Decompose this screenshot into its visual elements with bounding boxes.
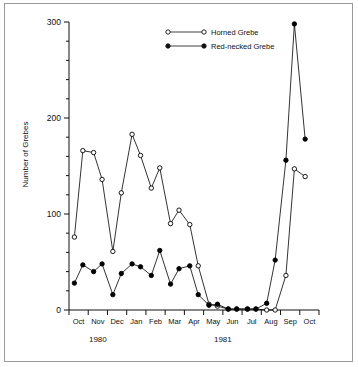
x-tick-label-dec-2: Dec (110, 317, 124, 326)
data-point-2-7 (138, 265, 142, 269)
data-point-2-8 (149, 273, 153, 277)
legend-label-1: Horned Grebe (211, 28, 259, 37)
data-point-1-9 (158, 166, 162, 170)
data-point-2-17 (234, 307, 238, 311)
x-tick-label-sep-11: Sep (283, 317, 296, 326)
x-tick-label-jun-8: Jun (226, 317, 238, 326)
legend-marker-1-1 (202, 30, 206, 34)
y-tick-label: 200 (47, 113, 61, 123)
legend-marker-2-1 (202, 44, 206, 48)
data-point-1-11 (177, 208, 181, 212)
data-point-2-12 (188, 264, 192, 268)
legend-marker-1-0 (166, 30, 170, 34)
data-point-1-4 (111, 249, 115, 253)
grebe-population-chart: Number of Grebes 0100200300OctNovDecJanF… (0, 0, 358, 367)
data-point-1-5 (119, 191, 123, 195)
data-point-1-1 (81, 148, 85, 152)
x-tick-label-oct-12: Oct (304, 317, 317, 326)
data-point-2-13 (196, 292, 200, 296)
y-tick-label: 100 (47, 209, 61, 219)
data-point-2-0 (72, 281, 76, 285)
data-point-1-7 (138, 153, 142, 157)
data-point-2-15 (215, 302, 219, 306)
data-point-2-20 (264, 301, 268, 305)
x-tick-label-jan-3: Jan (130, 317, 142, 326)
x-tick-label-jul-9: Jul (247, 317, 257, 326)
y-axis-title: Number of Grebes (21, 110, 30, 200)
data-point-1-6 (130, 132, 134, 136)
data-point-2-5 (119, 271, 123, 275)
data-point-2-23 (292, 22, 296, 26)
legend-label-2: Red-necked Grebe (211, 42, 274, 51)
data-point-1-0 (72, 235, 76, 239)
x-tick-label-oct-0: Oct (73, 317, 86, 326)
year-label-1980: 1980 (89, 335, 107, 344)
x-tick-label-aug-10: Aug (264, 317, 277, 326)
data-point-2-2 (91, 269, 95, 273)
legend-marker-2-0 (166, 44, 170, 48)
x-tick-label-nov-1: Nov (91, 317, 105, 326)
data-point-1-8 (149, 186, 153, 190)
y-tick-label: 300 (47, 17, 61, 27)
data-point-2-22 (284, 158, 288, 162)
data-point-2-3 (100, 262, 104, 266)
data-point-1-12 (188, 222, 192, 226)
data-point-2-14 (207, 303, 211, 307)
data-point-2-19 (254, 307, 258, 311)
data-point-1-10 (168, 221, 172, 225)
data-point-2-4 (111, 292, 115, 296)
data-point-1-23 (292, 167, 296, 171)
data-point-2-21 (273, 258, 277, 262)
data-point-2-1 (81, 263, 85, 267)
chart-canvas: 0100200300OctNovDecJanFebMarAprMayJunJul… (0, 0, 358, 367)
data-point-2-6 (130, 262, 134, 266)
data-point-1-20 (264, 308, 268, 312)
data-point-1-21 (273, 308, 277, 312)
data-point-1-24 (303, 174, 307, 178)
data-point-2-24 (303, 137, 307, 141)
data-point-2-10 (168, 282, 172, 286)
x-tick-label-may-7: May (206, 317, 220, 326)
data-point-1-22 (284, 273, 288, 277)
year-label-1981: 1981 (214, 335, 232, 344)
data-point-2-18 (245, 307, 249, 311)
x-tick-label-feb-4: Feb (149, 317, 162, 326)
data-point-1-2 (91, 150, 95, 154)
data-point-1-13 (196, 264, 200, 268)
data-point-2-11 (177, 267, 181, 271)
data-point-2-16 (226, 307, 230, 311)
x-tick-label-mar-5: Mar (168, 317, 181, 326)
data-point-2-9 (158, 248, 162, 252)
y-tick-label: 0 (56, 305, 61, 315)
x-tick-label-apr-6: Apr (188, 317, 200, 326)
data-point-1-3 (100, 177, 104, 181)
